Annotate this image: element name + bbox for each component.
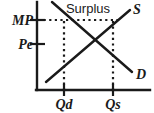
price-max-label: MP: [11, 13, 33, 28]
supply-demand-surplus-diagram: MP Pe Qd Qs S D Surplus: [0, 0, 154, 113]
quantity-supplied-label: Qs: [105, 97, 121, 112]
price-equilibrium-label: Pe: [18, 37, 33, 52]
chart-canvas: MP Pe Qd Qs S D Surplus: [0, 0, 154, 113]
demand-curve-label: D: [135, 67, 146, 82]
quantity-demanded-label: Qd: [55, 97, 73, 112]
supply-curve-label: S: [133, 2, 141, 17]
supply-curve: [46, 10, 130, 82]
surplus-label: Surplus: [66, 1, 111, 16]
tick-marks-group: [30, 20, 113, 96]
